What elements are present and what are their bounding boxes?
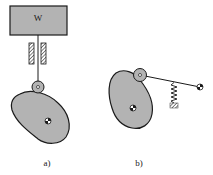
return-spring	[170, 83, 178, 109]
roller-follower-a	[32, 81, 44, 93]
weight-label: W	[34, 13, 43, 23]
cam-b	[109, 71, 152, 129]
cam-pivot-a-icon	[45, 118, 51, 124]
roller-follower-b	[134, 69, 147, 82]
cam-diagram: W a)	[0, 0, 213, 175]
panel-a: W a)	[10, 6, 69, 168]
panel-b-label: b)	[135, 158, 143, 168]
lever-pivot-icon	[197, 84, 203, 90]
lever-arm	[140, 75, 200, 87]
cam-pivot-b-icon	[130, 105, 136, 111]
panel-a-label: a)	[44, 158, 51, 168]
cam-a	[11, 91, 69, 143]
weight-block: W	[10, 6, 67, 35]
panel-b: b)	[109, 69, 203, 169]
